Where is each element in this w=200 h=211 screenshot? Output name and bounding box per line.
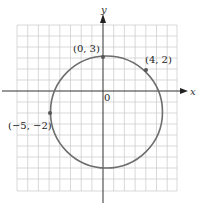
x-axis-label: x <box>190 86 196 97</box>
origin-label: 0 <box>104 92 110 103</box>
circle-graph: x y 0 (0, 3) (4, 2) (−5, −2) <box>0 0 200 211</box>
point-0-3 <box>101 55 105 59</box>
x-axis-arrow-icon <box>180 88 188 94</box>
y-axis-arrow-icon <box>100 14 106 23</box>
point-label-neg5-neg2: (−5, −2) <box>8 120 52 131</box>
point-label-4-2: (4, 2) <box>145 54 172 65</box>
point-neg5-neg2 <box>48 111 52 115</box>
point-4-2 <box>144 68 148 72</box>
y-axis-label: y <box>100 4 107 15</box>
point-label-0-3: (0, 3) <box>73 43 100 54</box>
